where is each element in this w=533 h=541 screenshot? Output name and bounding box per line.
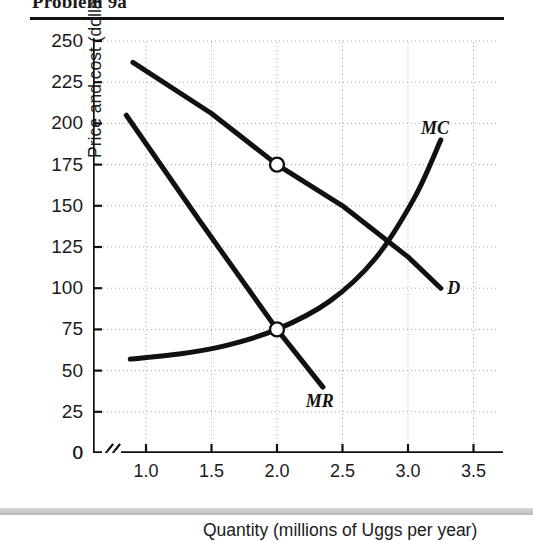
x-axis-title: Quantity (millions of Uggs per year) xyxy=(203,520,477,541)
x-tick-label: 2.5 xyxy=(320,462,366,480)
x-tick-label: 3.5 xyxy=(451,462,497,480)
y-tick-label: 175 xyxy=(31,155,83,174)
y-tick-label: 250 xyxy=(31,31,83,50)
y-tick-label: 75 xyxy=(31,319,83,338)
y-tick-label: 200 xyxy=(31,113,83,132)
page-title: Problem 9a xyxy=(32,0,127,13)
y-tick-label: 100 xyxy=(31,278,83,297)
y-tick-label: 225 xyxy=(31,72,83,91)
y-tick-label: 125 xyxy=(31,237,83,256)
x-tick-label: 2.0 xyxy=(254,462,300,480)
y-tick-label: 150 xyxy=(31,196,83,215)
x-tick-label: 3.0 xyxy=(385,462,431,480)
footer-divider xyxy=(0,508,533,515)
chart-svg xyxy=(93,38,503,453)
x-tick-label: 1.0 xyxy=(123,462,169,480)
x-tick-label: 1.5 xyxy=(189,462,235,480)
chart-plot-area: Price and cost (dollars per Ugg) Quantit… xyxy=(93,38,503,453)
y-tick-label: 50 xyxy=(31,361,83,380)
y-tick-label: 25 xyxy=(31,402,83,421)
origin-label: 0 xyxy=(31,443,83,462)
